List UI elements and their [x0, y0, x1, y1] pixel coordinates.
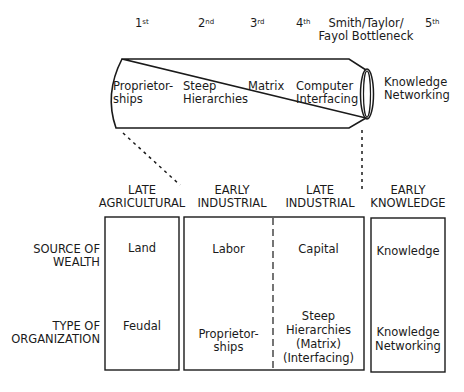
wave-2: 2nd	[198, 17, 214, 30]
era-late-industrial: LATE INDUSTRIAL	[276, 184, 364, 210]
cell-org-proprietorships: Proprietor- ships	[184, 328, 273, 354]
bottleneck-line2: Fayol Bottleneck	[316, 30, 416, 43]
pipe-label-computer-interfacing: Computer Interfacing	[296, 80, 358, 106]
cell-line: Feudal	[105, 320, 179, 333]
cell-line: Knowledge	[371, 325, 445, 339]
wave-5: 5th	[425, 17, 440, 30]
era-early-knowledge: EARLY KNOWLEDGE	[364, 184, 452, 210]
label-line: Networking	[384, 89, 450, 102]
cell-wealth-labor: Labor	[184, 243, 273, 256]
row-label-type-of-organization: TYPE OF ORGANIZATION	[0, 320, 100, 346]
cell-line: Networking	[371, 339, 445, 353]
era-line: AGRICULTURAL	[98, 197, 186, 210]
box-late-agricultural	[105, 217, 179, 370]
label-line: Interfacing	[296, 93, 358, 106]
cell-line: Steep	[273, 309, 364, 323]
pipe-label-steep-hierarchies: Steep Hierarchies	[183, 80, 248, 106]
bottleneck-label: Smith/Taylor/ Fayol Bottleneck	[316, 17, 416, 43]
row-label-source-of-wealth: SOURCE OF WEALTH	[0, 243, 100, 269]
wave-suffix: th	[303, 18, 310, 26]
bottleneck-ring-outer	[361, 69, 374, 119]
era-line: KNOWLEDGE	[364, 197, 452, 210]
era-line: INDUSTRIAL	[276, 197, 364, 210]
cell-line: (Interfacing)	[273, 351, 364, 365]
wave-4: 4th	[296, 17, 311, 30]
row-label-line: ORGANIZATION	[0, 333, 100, 346]
wave-3: 3rd	[250, 17, 265, 30]
wave-suffix: rd	[257, 18, 264, 26]
pipe-label-matrix: Matrix	[248, 80, 284, 93]
pipe-label-proprietorships: Proprietor- ships	[113, 80, 173, 106]
cell-org-feudal: Feudal	[105, 320, 179, 333]
wave-1: 1st	[135, 17, 149, 30]
cell-wealth-knowledge: Knowledge	[371, 245, 445, 258]
era-early-industrial: EARLY INDUSTRIAL	[188, 184, 276, 210]
connector-left	[123, 133, 180, 185]
outside-label-knowledge-networking: Knowledge Networking	[384, 76, 450, 102]
wave-suffix: nd	[205, 18, 214, 26]
cell-org-knowledge-networking: Knowledge Networking	[371, 325, 445, 353]
cell-line: Hierarchies	[273, 323, 364, 337]
cell-org-hierarchies: Steep Hierarchies (Matrix) (Interfacing)	[273, 309, 364, 365]
cell-wealth-land: Land	[105, 242, 179, 255]
cell-line: (Matrix)	[273, 337, 364, 351]
era-line: INDUSTRIAL	[188, 197, 276, 210]
label-line: Matrix	[248, 80, 284, 93]
bottleneck-ring-inner	[364, 71, 371, 117]
wave-suffix: th	[432, 18, 439, 26]
wave-suffix: st	[142, 18, 148, 26]
cell-wealth-capital: Capital	[273, 243, 364, 256]
label-line: Hierarchies	[183, 93, 248, 106]
label-line: ships	[113, 93, 173, 106]
era-late-agricultural: LATE AGRICULTURAL	[98, 184, 186, 210]
row-label-line: WEALTH	[0, 256, 100, 269]
cell-line: ships	[184, 341, 273, 354]
